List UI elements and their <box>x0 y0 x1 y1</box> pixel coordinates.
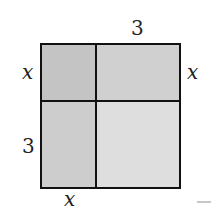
square-figure <box>0 0 212 214</box>
region-bottom-right <box>96 101 180 188</box>
scan-mark <box>197 201 211 203</box>
region-bottom-left <box>41 101 96 188</box>
area-model-diagram: 3 x x 3 x <box>0 0 212 214</box>
label-left-x: x <box>22 62 33 82</box>
region-top-left <box>41 44 96 101</box>
label-bottom-x: x <box>64 189 75 209</box>
label-right-x: x <box>187 62 198 82</box>
region-top-right <box>96 44 180 101</box>
label-left-3: 3 <box>22 136 35 156</box>
label-top-3: 3 <box>131 18 144 38</box>
